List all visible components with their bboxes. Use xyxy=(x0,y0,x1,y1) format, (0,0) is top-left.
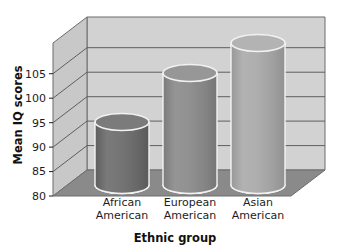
y-axis-title: Mean IQ scores xyxy=(11,65,25,164)
bar-asian-american[interactable] xyxy=(231,35,285,194)
y-tick-label-85: 85 xyxy=(32,165,46,178)
bar-european-american[interactable] xyxy=(163,65,217,194)
iq-bar-chart: 105 100 95 90 85 80 xyxy=(0,0,337,252)
left-side-wall xyxy=(53,17,87,196)
cat-label-european-line1: European xyxy=(164,196,216,209)
bar-african-american[interactable] xyxy=(95,114,149,194)
y-tick-label-80: 80 xyxy=(32,190,46,203)
cat-label-asian-line1: Asian xyxy=(243,196,273,209)
cat-label-asian-line2: American xyxy=(232,209,284,222)
bar-2-top xyxy=(163,65,217,82)
y-tick-label-95: 95 xyxy=(32,117,46,130)
bar-3-body xyxy=(231,43,285,194)
bar-1-body xyxy=(95,122,149,194)
y-axis-ticks xyxy=(49,74,53,196)
cat-label-african-line2: American xyxy=(96,209,148,222)
bar-2-body xyxy=(163,73,217,194)
x-axis-category-labels: African American European American Asian… xyxy=(96,196,284,222)
bar-3-top xyxy=(231,35,285,52)
bar-1-top xyxy=(95,114,149,131)
x-axis-title: Ethnic group xyxy=(134,231,217,245)
y-axis-tick-labels: 105 100 95 90 85 80 xyxy=(25,68,46,203)
cat-label-european-line2: American xyxy=(164,209,216,222)
y-tick-label-100: 100 xyxy=(25,92,46,105)
chart-container: 105 100 95 90 85 80 xyxy=(0,0,337,252)
cat-label-african-line1: African xyxy=(103,196,141,209)
y-tick-label-90: 90 xyxy=(32,141,46,154)
y-tick-label-105: 105 xyxy=(25,68,46,81)
